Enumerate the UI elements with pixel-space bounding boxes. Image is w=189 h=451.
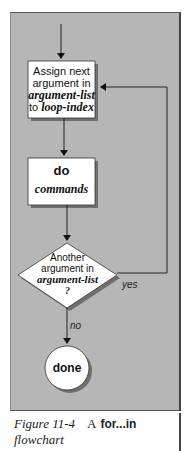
assign-line4: to loop-index — [28, 101, 95, 113]
assign-box-text: Assign next argument in argument-list to… — [28, 65, 95, 113]
flowchart-figure: Assign next argument in argument-list to… — [0, 0, 189, 451]
caption-line1: Figure 11-4 A for...in — [14, 415, 175, 432]
decision-question-mark: ? — [18, 285, 117, 296]
no-label: no — [70, 320, 81, 331]
caption-keyword: for...in — [100, 417, 136, 431]
decision-text: Another argument in argument-list ? — [18, 252, 117, 296]
assign-line1: Assign next — [28, 65, 95, 77]
caption-figure-number: Figure 11-4 — [14, 416, 75, 431]
caption-rest: flowchart — [14, 432, 175, 448]
figure-caption: Figure 11-4 A for...in flowchart — [10, 413, 181, 451]
do-box-text: do commands — [28, 163, 95, 195]
decision-line1: Another — [18, 252, 117, 263]
caption-article: A — [87, 416, 96, 431]
assign-loop-index: loop-index — [41, 100, 94, 114]
assign-to-text: to — [29, 101, 41, 113]
yes-loop-line — [101, 87, 167, 273]
decision-argument-list: argument-list — [18, 274, 117, 285]
yes-label: yes — [122, 279, 138, 290]
do-keyword: do — [28, 163, 95, 179]
done-label: done — [45, 361, 89, 375]
do-commands: commands — [28, 183, 95, 195]
